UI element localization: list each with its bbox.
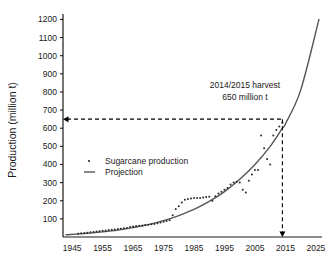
data-point <box>184 199 186 201</box>
x-tick-label: 1985 <box>185 243 204 253</box>
data-point <box>233 182 235 184</box>
y-tick-label: 100 <box>43 214 57 224</box>
y-tick-label: 800 <box>43 87 57 97</box>
data-point <box>86 232 88 234</box>
data-point <box>239 182 241 184</box>
data-point <box>193 197 195 199</box>
data-point <box>92 231 94 233</box>
data-point <box>123 227 125 229</box>
data-point <box>126 227 128 229</box>
data-point <box>242 189 244 191</box>
data-point <box>156 222 158 224</box>
data-point <box>248 180 250 182</box>
data-point <box>83 232 85 234</box>
y-tick-label: 1200 <box>38 14 57 24</box>
data-point <box>111 229 113 231</box>
x-tick-label: 2025 <box>306 243 325 253</box>
data-point <box>150 223 152 225</box>
y-tick-label: 200 <box>43 196 57 206</box>
data-point <box>245 192 247 194</box>
data-point <box>254 169 256 171</box>
data-point <box>80 232 82 234</box>
data-point <box>230 183 232 185</box>
data-point <box>102 230 104 232</box>
data-point <box>217 192 219 194</box>
data-point <box>178 205 180 207</box>
data-point <box>175 208 177 210</box>
annotation-line-1: 2014/2015 harvest <box>210 80 281 90</box>
data-point <box>181 202 183 204</box>
x-tick-label: 1955 <box>93 243 112 253</box>
data-point <box>208 196 210 198</box>
data-point <box>199 197 201 199</box>
legend-label-projection: Projection <box>105 167 143 177</box>
data-point <box>196 197 198 199</box>
legend-marker-dot-icon <box>88 160 90 162</box>
data-point <box>114 228 116 230</box>
data-point <box>263 147 265 149</box>
data-point <box>147 224 149 226</box>
data-point <box>190 198 192 200</box>
data-point <box>275 129 277 131</box>
data-point <box>166 220 168 222</box>
data-point <box>89 231 91 233</box>
data-point <box>96 231 98 233</box>
x-axis-tick-labels: 194519551965197519851995200520152025 <box>63 243 326 253</box>
data-point <box>202 196 204 198</box>
data-point <box>132 225 134 227</box>
data-point <box>129 226 131 228</box>
data-point <box>105 229 107 231</box>
data-point <box>269 163 271 165</box>
y-tick-label: 300 <box>43 178 57 188</box>
data-point <box>99 230 101 232</box>
data-point <box>272 134 274 136</box>
data-point <box>278 125 280 127</box>
x-tick-label: 2015 <box>276 243 295 253</box>
data-point <box>117 228 119 230</box>
data-point <box>77 233 79 235</box>
y-axis-title: Production (million t) <box>6 82 18 178</box>
data-point <box>260 134 262 136</box>
data-point <box>144 224 146 226</box>
data-point <box>141 224 143 226</box>
data-point <box>169 219 171 221</box>
data-point <box>205 196 207 198</box>
data-point <box>160 222 162 224</box>
x-tick-label: 1965 <box>124 243 143 253</box>
data-point <box>214 195 216 197</box>
data-point <box>251 173 253 175</box>
y-tick-label: 600 <box>43 123 57 133</box>
data-point <box>187 198 189 200</box>
data-point <box>135 225 137 227</box>
data-point <box>138 225 140 227</box>
x-tick-label: 2005 <box>246 243 265 253</box>
y-tick-label: 1100 <box>39 33 58 43</box>
data-point <box>236 181 238 183</box>
data-point <box>266 158 268 160</box>
x-tick-label: 1995 <box>215 243 234 253</box>
data-point <box>163 221 165 223</box>
x-tick-label: 1975 <box>154 243 173 253</box>
data-point <box>220 191 222 193</box>
data-point <box>172 214 174 216</box>
annotation-line-2: 650 million t <box>222 92 268 102</box>
data-point <box>223 189 225 191</box>
y-tick-label: 900 <box>43 69 57 79</box>
y-tick-label: 1000 <box>38 51 57 61</box>
x-tick-label: 1945 <box>63 243 82 253</box>
data-point <box>257 169 259 171</box>
sugarcane-production-chart: 100200300400500600700800900100011001200 … <box>0 0 331 265</box>
chart-canvas: 100200300400500600700800900100011001200 … <box>0 0 331 265</box>
y-tick-label: 700 <box>43 105 57 115</box>
data-point <box>211 200 213 202</box>
y-tick-label: 400 <box>43 159 57 169</box>
data-point <box>120 228 122 230</box>
data-point <box>108 229 110 231</box>
y-tick-label: 500 <box>43 141 57 151</box>
legend-label-sugarcane-production: Sugarcane production <box>105 156 188 166</box>
data-point <box>153 223 155 225</box>
data-point <box>227 187 229 189</box>
